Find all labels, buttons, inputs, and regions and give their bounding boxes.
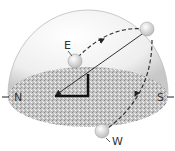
label-north: N [14, 92, 22, 103]
sun-noon [140, 22, 154, 36]
sun-west [95, 124, 109, 138]
label-south: S [157, 92, 164, 103]
label-east: E [64, 40, 71, 51]
label-west: W [112, 136, 123, 147]
sun-east [68, 54, 82, 68]
sun-path-diagram [0, 0, 175, 151]
